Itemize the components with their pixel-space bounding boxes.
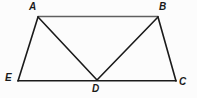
segment-AD [38, 17, 97, 80]
segment-BC [158, 17, 176, 81]
vertex-label-c: C [179, 77, 186, 87]
segment-BD [97, 17, 158, 80]
vertex-label-e: E [5, 73, 12, 83]
vertex-label-d: D [92, 84, 99, 94]
geometry-figure: A B C D E [0, 0, 197, 98]
segment-AE [18, 17, 38, 81]
vertex-label-a: A [29, 2, 36, 12]
vertex-label-b: B [159, 2, 166, 12]
